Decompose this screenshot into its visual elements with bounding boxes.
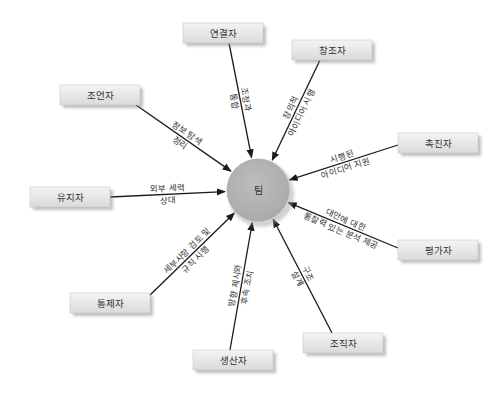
team-label: 팀 (254, 185, 263, 196)
edge-label-controller: 세부사항 검토 및규칙 시행 (162, 226, 213, 276)
role-label-organizer: 조직자 (330, 338, 357, 349)
role-box-connector: 연결자 (183, 23, 266, 46)
edge-label-assessor: 대안에 대한통찰력 있는 분석 제공 (302, 207, 380, 251)
edge-arrow-assessor (288, 203, 398, 248)
role-label-assessor: 평가자 (425, 245, 452, 256)
role-label-promoter: 촉진자 (425, 138, 452, 149)
role-box-controller: 통제자 (70, 293, 153, 316)
role-box-organizer: 조직자 (303, 333, 386, 356)
role-label-connector: 연결자 (210, 28, 237, 39)
role-label-creator: 창조자 (319, 45, 346, 56)
edge-label-line: 통합 (228, 93, 241, 111)
role-label-controller: 통제자 (97, 298, 124, 309)
role-box-maintainer: 유지자 (30, 187, 113, 210)
role-label-producer: 생산자 (220, 355, 247, 366)
team-roles-diagram: 조정과통합창의적아이디어 시행정보 탐색정리시행된아이디어 지원외부 세력상대대… (0, 0, 504, 397)
edge-label-line: 외부 세력 (150, 182, 185, 194)
edge-arrow-controller (148, 213, 234, 297)
role-label-maintainer: 유지자 (57, 192, 84, 203)
edge-label-line: 상대 (160, 195, 176, 206)
role-box-producer: 생산자 (193, 350, 276, 373)
edge-label-organizer: 구조설계 (289, 264, 316, 288)
edge-arrow-advisor (136, 105, 231, 171)
role-box-creator: 창조자 (292, 40, 375, 63)
role-box-promoter: 촉진자 (398, 133, 481, 156)
role-box-advisor: 조언자 (60, 85, 143, 108)
edge-label-advisor: 정보 탐색정리 (170, 119, 204, 152)
role-label-advisor: 조언자 (87, 90, 114, 101)
edge-label-promoter: 시행된아이디어 지원 (320, 148, 371, 180)
role-box-assessor: 평가자 (398, 240, 481, 263)
